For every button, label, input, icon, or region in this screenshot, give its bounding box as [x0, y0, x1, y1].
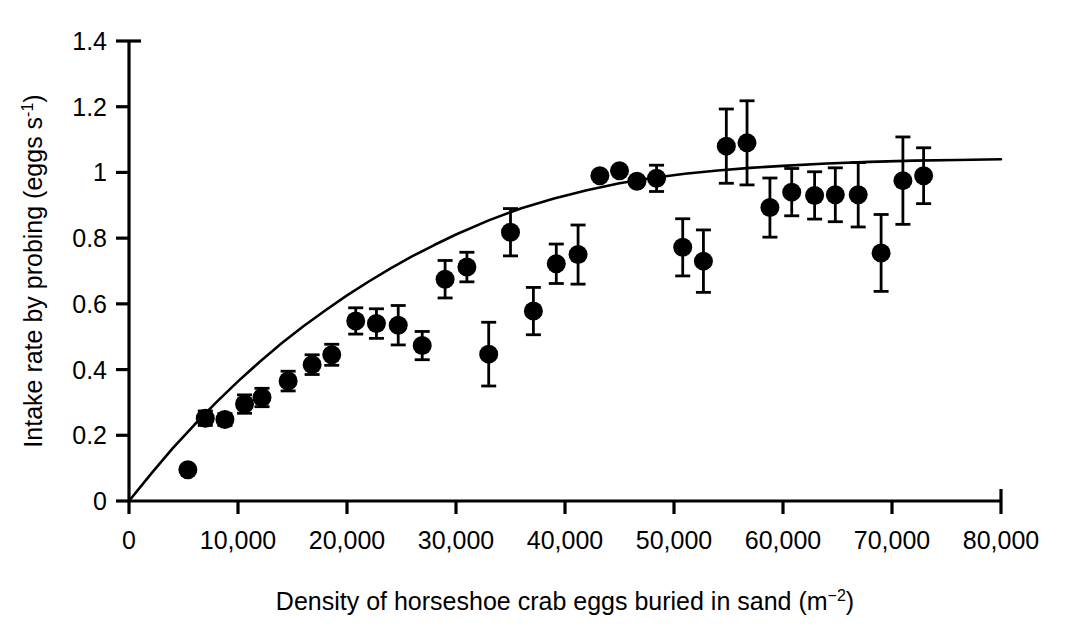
data-point-5 — [279, 372, 298, 391]
y-axis-title: Intake rate by probing (eggs s-1) — [19, 94, 47, 447]
x-tick-label-0: 0 — [122, 526, 136, 554]
data-point-13 — [457, 258, 476, 277]
y-tick-label-0: 0 — [93, 487, 107, 515]
data-point-3 — [235, 395, 254, 414]
x-tick-label-3: 30,000 — [418, 526, 494, 554]
axes — [116, 41, 1001, 514]
scatter-plot: 010,00020,00030,00040,00050,00060,00070,… — [0, 0, 1067, 635]
x-axis-title: Density of horseshoe crab eggs buried in… — [276, 587, 854, 615]
y-tick-label-3: 0.6 — [72, 290, 107, 318]
y-tick-label-6: 1.2 — [72, 93, 107, 121]
fit-curve-line — [129, 159, 1001, 501]
data-point-26 — [738, 133, 757, 152]
x-tick-label-8: 80,000 — [963, 526, 1039, 554]
y-tick-labels: 00.20.40.60.811.21.4 — [72, 27, 107, 515]
data-point-8 — [346, 311, 365, 330]
data-point-21 — [627, 172, 646, 191]
fit-curve — [129, 159, 1001, 501]
data-point-6 — [303, 355, 322, 374]
y-axis-title-main: Intake rate by probing (eggs s — [19, 117, 47, 448]
data-point-34 — [914, 166, 933, 185]
data-point-24 — [694, 252, 713, 271]
data-point-12 — [436, 270, 455, 289]
data-point-14 — [479, 345, 498, 364]
y-tick-label-5: 1 — [93, 158, 107, 186]
data-point-0 — [178, 460, 197, 479]
data-point-19 — [590, 166, 609, 185]
data-point-27 — [760, 198, 779, 217]
y-axis-title-text: Intake rate by probing (eggs s-1) — [19, 94, 47, 447]
x-tick-label-5: 50,000 — [636, 526, 712, 554]
data-points — [178, 133, 933, 479]
data-point-2 — [215, 410, 234, 429]
x-axis-title-main: Density of horseshoe crab eggs buried in… — [276, 587, 828, 615]
x-tick-label-4: 40,000 — [527, 526, 603, 554]
x-axis-title-text: Density of horseshoe crab eggs buried in… — [276, 587, 854, 615]
data-point-32 — [872, 243, 891, 262]
x-tick-label-6: 60,000 — [745, 526, 821, 554]
data-point-30 — [826, 185, 845, 204]
data-point-23 — [673, 238, 692, 257]
data-point-29 — [805, 186, 824, 205]
y-axis-title-superscript: -1 — [19, 103, 36, 117]
data-point-10 — [389, 316, 408, 335]
data-point-17 — [547, 254, 566, 273]
data-point-16 — [524, 302, 543, 321]
data-point-18 — [569, 245, 588, 264]
y-tick-label-2: 0.4 — [72, 356, 107, 384]
x-tick-label-2: 20,000 — [309, 526, 385, 554]
data-point-31 — [849, 185, 868, 204]
x-axis-title-superscript: −2 — [828, 587, 846, 604]
data-point-15 — [501, 223, 520, 242]
y-tick-label-7: 1.4 — [72, 27, 107, 55]
y-tick-label-4: 0.8 — [72, 224, 107, 252]
x-axis-title-tail: ) — [846, 587, 854, 615]
data-point-7 — [322, 345, 341, 364]
y-axis-title-tail: ) — [19, 94, 47, 102]
data-point-25 — [717, 137, 736, 156]
x-tick-label-1: 10,000 — [200, 526, 276, 554]
data-point-20 — [610, 161, 629, 180]
x-tick-labels: 010,00020,00030,00040,00050,00060,00070,… — [122, 526, 1039, 554]
data-point-22 — [647, 169, 666, 188]
data-point-33 — [893, 171, 912, 190]
x-tick-label-7: 70,000 — [854, 526, 930, 554]
chart-figure: 010,00020,00030,00040,00050,00060,00070,… — [0, 0, 1067, 635]
data-point-4 — [252, 388, 271, 407]
data-point-1 — [196, 409, 215, 428]
data-point-9 — [367, 314, 386, 333]
data-point-28 — [782, 183, 801, 202]
data-point-11 — [413, 336, 432, 355]
y-tick-label-1: 0.2 — [72, 421, 107, 449]
